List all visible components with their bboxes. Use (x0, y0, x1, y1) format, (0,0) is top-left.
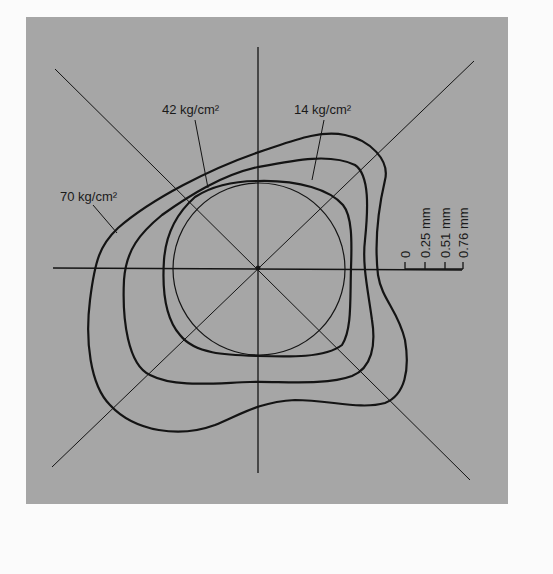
deformation-diagram: 70 kg/cm² 42 kg/cm² 14 kg/cm² 0 0.25 mm … (0, 0, 553, 574)
scale-tick-051: 0.51 mm (438, 207, 453, 258)
scale-tick-0: 0 (398, 251, 413, 258)
label-70: 70 kg/cm² (60, 189, 118, 204)
diagonal-axis-nw-se (55, 69, 470, 480)
center-point (256, 266, 260, 270)
scale-tick-025: 0.25 mm (418, 207, 433, 258)
contour-42 (124, 159, 374, 384)
scale-bar (405, 262, 463, 269)
leader-14 (312, 120, 324, 180)
scale-tick-076: 0.76 mm (456, 207, 471, 258)
label-14: 14 kg/cm² (294, 102, 352, 117)
leader-70 (93, 205, 117, 233)
contour-70 (88, 134, 407, 432)
label-42: 42 kg/cm² (162, 102, 220, 117)
